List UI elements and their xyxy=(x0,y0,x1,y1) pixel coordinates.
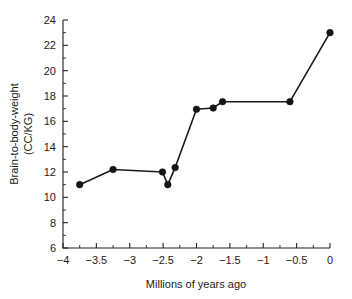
chart-axes xyxy=(63,20,330,248)
data-point-marker xyxy=(193,106,200,113)
data-point-marker xyxy=(165,181,172,188)
x-tick-label: −1 xyxy=(257,254,270,266)
data-point-marker xyxy=(159,169,166,176)
x-tick-label: −2.5 xyxy=(152,254,174,266)
y-tick-label: 12 xyxy=(44,166,56,178)
line-chart: −4−3.5−3−2.5−2−1.5−1−0.50 68101214161820… xyxy=(0,0,352,299)
data-series xyxy=(80,33,330,185)
data-point-marker xyxy=(76,181,83,188)
y-tick-label: 8 xyxy=(50,217,56,229)
x-tick-label: −1.5 xyxy=(219,254,241,266)
y-tick-label: 14 xyxy=(44,141,56,153)
y-axis-title-line1: Brain-to-body-weight xyxy=(8,83,20,185)
y-axis-title-line2: (CC/KG) xyxy=(22,113,34,155)
data-point-marker xyxy=(110,166,117,173)
data-point-marker xyxy=(210,105,217,112)
x-tick-label: −3 xyxy=(123,254,136,266)
y-tick-label: 10 xyxy=(44,191,56,203)
x-tick-label: −0.5 xyxy=(286,254,308,266)
y-tick-label: 18 xyxy=(44,90,56,102)
y-tick-label: 16 xyxy=(44,115,56,127)
data-point-marker xyxy=(287,98,294,105)
x-tick-label: −3.5 xyxy=(86,254,108,266)
y-tick-label: 24 xyxy=(44,14,56,26)
y-tick-label: 20 xyxy=(44,65,56,77)
y-tick-label: 6 xyxy=(50,242,56,254)
x-tick-label: −4 xyxy=(57,254,70,266)
x-axis-title: Millions of years ago xyxy=(146,278,246,290)
y-tick-label: 22 xyxy=(44,39,56,51)
x-axis-tick-labels: −4−3.5−3−2.5−2−1.5−1−0.50 xyxy=(57,254,333,266)
data-point-marker xyxy=(219,98,226,105)
x-tick-label: 0 xyxy=(327,254,333,266)
chart-tick-marks xyxy=(63,20,330,248)
x-tick-label: −2 xyxy=(190,254,203,266)
data-point-marker xyxy=(172,164,179,171)
series-line xyxy=(80,33,330,185)
chart-figure: −4−3.5−3−2.5−2−1.5−1−0.50 68101214161820… xyxy=(0,0,352,299)
data-point-marker xyxy=(327,29,334,36)
y-axis-tick-labels: 681012141618202224 xyxy=(44,14,56,254)
